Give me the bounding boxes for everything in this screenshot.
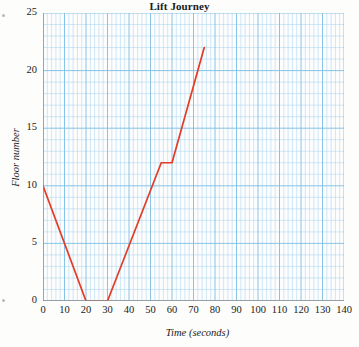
y-tick-label: 10: [9, 179, 37, 190]
chart-figure: Lift Journey Floor number Time (seconds)…: [0, 0, 359, 347]
plot-area: [43, 13, 344, 301]
x-axis-label: Time (seconds): [40, 327, 355, 338]
y-tick-label: 5: [9, 236, 37, 247]
y-tick-label: 25: [9, 6, 37, 17]
scan-artifact-dot-bottom: [2, 299, 5, 302]
plot-svg: [43, 13, 344, 301]
chart-title: Lift Journey: [0, 0, 359, 12]
scan-artifact-dot-top: [2, 14, 5, 17]
x-tick-label: 140: [331, 304, 357, 315]
y-tick-label: 15: [9, 121, 37, 132]
y-tick-label: 20: [9, 64, 37, 75]
